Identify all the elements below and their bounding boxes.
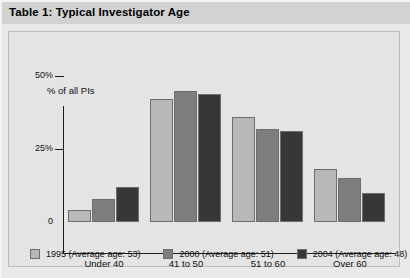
legend-label-2000: 2000 (Average age: 51) (179, 249, 273, 259)
figure-container: Table 1: Typical Investigator Age % of a… (0, 0, 410, 278)
y-tick-label-50: 50% (15, 70, 53, 80)
bar-2004-51-to-60 (280, 131, 303, 222)
legend-item-2000: 2000 (Average age: 51) (163, 249, 273, 259)
plot-area (56, 76, 386, 222)
legend-swatch-1995-icon (30, 249, 40, 259)
bar-1995-over-60 (314, 169, 337, 222)
legend-swatch-2004-icon (297, 249, 307, 259)
bar-1995-51-to-60 (232, 117, 255, 222)
page-title: Table 1: Typical Investigator Age (9, 6, 190, 18)
bar-1995-41-to-50 (150, 99, 173, 222)
legend-swatch-2000-icon (163, 249, 173, 259)
chart-panel: % of all PIs 50% 25% 0 (8, 31, 400, 267)
bar-1995-under-40 (68, 210, 91, 222)
y-tick-label-25: 25% (15, 143, 53, 153)
bar-2004-over-60 (362, 193, 385, 222)
bar-2000-41-to-50 (174, 91, 197, 222)
bar-2004-41-to-50 (198, 94, 221, 222)
chart-title-bar: Table 1: Typical Investigator Age (0, 0, 410, 24)
bar-2004-under-40 (116, 187, 139, 222)
chart-legend: 1995 (Average age: 53) 2000 (Average age… (8, 243, 400, 265)
legend-label-1995: 1995 (Average age: 53) (46, 249, 140, 259)
legend-item-2004: 2004 (Average age: 48) (297, 249, 407, 259)
bar-2000-51-to-60 (256, 129, 279, 222)
bar-2000-under-40 (92, 199, 115, 222)
legend-item-1995: 1995 (Average age: 53) (30, 249, 140, 259)
y-tick-label-0: 0 (15, 216, 53, 226)
legend-label-2004: 2004 (Average age: 48) (313, 249, 407, 259)
bar-2000-over-60 (338, 178, 361, 222)
